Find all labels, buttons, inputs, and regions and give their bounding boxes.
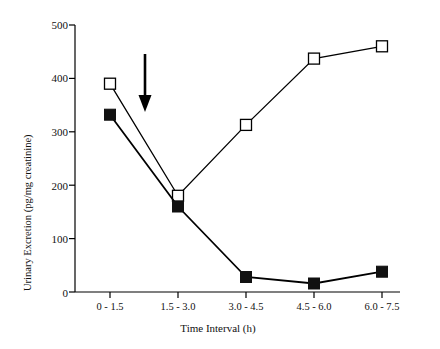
down-arrow-annotation bbox=[139, 54, 152, 112]
x-tick-marks bbox=[110, 292, 382, 298]
chart-plot bbox=[0, 0, 440, 349]
y-tick-marks bbox=[69, 25, 75, 292]
open-square-series-markers bbox=[105, 41, 388, 202]
chart-container: Urinary Excretion (pg/mg creatinine) 0 1… bbox=[0, 0, 440, 349]
filled-square-series-markers bbox=[105, 109, 388, 289]
filled-square-series-line bbox=[110, 115, 382, 284]
